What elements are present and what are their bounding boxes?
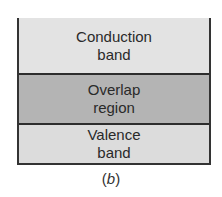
conduction-band: Conduction band <box>19 18 209 75</box>
conduction-band-label-line1: Conduction <box>76 28 152 46</box>
conduction-band-label-line2: band <box>97 46 130 64</box>
figure-caption: (b) <box>0 170 222 187</box>
overlap-region-label-line2: region <box>93 99 135 117</box>
valence-band: Valence band <box>19 125 209 163</box>
caption-close-paren: ) <box>115 170 120 187</box>
valence-band-label-line1: Valence <box>87 126 140 144</box>
valence-band-label-line2: band <box>97 144 130 162</box>
caption-letter: b <box>107 170 115 187</box>
overlap-region: Overlap region <box>19 75 209 125</box>
overlap-region-label-line1: Overlap <box>88 81 141 99</box>
band-diagram: Conduction band Overlap region Valence b… <box>17 18 211 165</box>
